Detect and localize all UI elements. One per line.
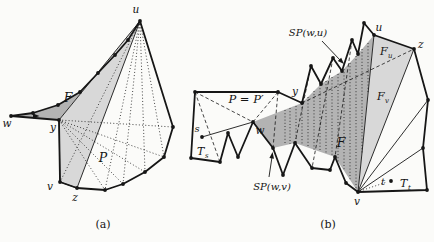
sp-wv-arrow — [269, 152, 274, 177]
caption-b: (b) — [320, 218, 336, 231]
svg-text:s: s — [205, 152, 209, 160]
svg-text:t: t — [408, 184, 411, 192]
label-funnel-F-a: F — [63, 90, 74, 105]
svg-text:v: v — [385, 97, 389, 105]
sp-wv-arrowhead — [269, 152, 274, 159]
point-s — [200, 135, 204, 139]
caption-a: (a) — [95, 218, 110, 231]
geometry-figure: u w y v z F P (a) — [0, 0, 434, 242]
label-v-b: v — [354, 195, 360, 207]
svg-text:u: u — [388, 52, 393, 60]
label-s: s — [194, 123, 199, 134]
point-t — [389, 179, 393, 183]
sp-wu-arrow — [322, 41, 344, 64]
label-y-a: y — [49, 121, 57, 133]
label-u-a: u — [133, 3, 140, 15]
panel-b: SP(w,u) SP(w,v) P = P′ u z v w y s t F F… — [189, 21, 430, 231]
label-t: t — [381, 176, 386, 187]
label-u-b: u — [376, 21, 383, 33]
label-polygon-P-a: P — [98, 150, 108, 165]
label-w-a: w — [3, 117, 12, 129]
label-w-b: w — [256, 124, 265, 136]
figure-canvas: u w y v z F P (a) — [0, 0, 434, 242]
label-z-a: z — [71, 191, 78, 203]
svg-text:F: F — [376, 90, 385, 103]
svg-text:F: F — [379, 45, 388, 58]
label-v-a: v — [47, 180, 53, 192]
label-Ts: T s — [197, 145, 209, 160]
label-z-b: z — [417, 38, 424, 50]
panel-a: u w y v z F P (a) — [3, 3, 175, 231]
label-p-equals-pprime: P = P′ — [227, 92, 263, 106]
label-funnel-F-b: F — [336, 135, 347, 150]
label-sp-wv: SP(w,v) — [253, 181, 291, 192]
label-sp-wu: SP(w,u) — [289, 27, 327, 38]
label-Tt: T t — [400, 177, 411, 192]
label-y-b: y — [291, 85, 299, 97]
